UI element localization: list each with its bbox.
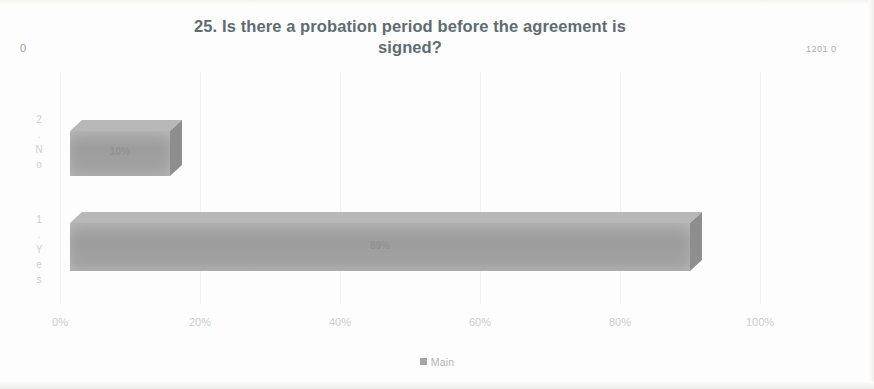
bar-yes[interactable]: 89% xyxy=(60,212,720,282)
plot-area: 2 . N o 1 . Y e s 10% 89% xyxy=(0,72,874,312)
x-axis-tick-60: 60% xyxy=(453,316,507,328)
bar-no[interactable]: 10% xyxy=(60,120,200,180)
y-axis-label-no-char: o xyxy=(28,157,50,172)
chart-title: 25. Is there a probation period before t… xyxy=(100,16,720,59)
chart-legend: Main xyxy=(0,352,874,370)
bar-yes-value-label: 89% xyxy=(360,240,400,251)
chart-title-line-1: 25. Is there a probation period before t… xyxy=(100,16,720,37)
bar-no-value-label: 10% xyxy=(100,146,140,157)
scan-edge-top xyxy=(0,0,874,4)
x-axis-tick-80: 80% xyxy=(593,316,647,328)
y-axis-label-yes-char: Y xyxy=(28,242,50,257)
y-axis-label-no-char: 2 xyxy=(28,112,50,127)
y-axis-label-yes-char: 1 xyxy=(28,212,50,227)
scan-edge-bottom xyxy=(0,381,874,389)
x-axis-tick-0: 0% xyxy=(33,316,87,328)
y-axis-label-yes-char: s xyxy=(28,272,50,287)
y-axis-label-no: 2 . N o xyxy=(28,112,50,172)
y-axis-label-no-char: N xyxy=(28,142,50,157)
page-marker-left: 0 xyxy=(20,42,27,54)
legend-entry-label: Main xyxy=(431,356,455,368)
gridline xyxy=(760,72,761,304)
y-axis-label-no-char: . xyxy=(28,127,50,142)
chart-title-line-2: signed? xyxy=(100,37,720,58)
page-marker-right: 1201 0 xyxy=(806,44,837,54)
x-axis-tick-20: 20% xyxy=(173,316,227,328)
legend-swatch-icon xyxy=(420,358,427,365)
chart-page: 0 1201 0 25. Is there a probation period… xyxy=(0,0,874,389)
bar-yes-top xyxy=(70,212,702,223)
bar-no-top xyxy=(70,120,182,131)
y-axis-label-yes-char: . xyxy=(28,227,50,242)
y-axis-label-yes-char: e xyxy=(28,257,50,272)
x-axis-tick-40: 40% xyxy=(313,316,367,328)
y-axis-label-yes: 1 . Y e s xyxy=(28,212,50,287)
x-axis-tick-100: 100% xyxy=(733,316,787,328)
legend-entry-main[interactable]: Main xyxy=(420,352,455,370)
